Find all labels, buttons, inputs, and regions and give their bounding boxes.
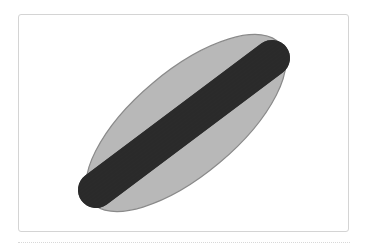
dotted-divider [18,242,350,243]
hot-dog-illustration [0,0,368,245]
